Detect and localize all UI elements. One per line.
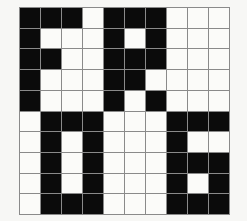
grid-cell-r7-c9[interactable] — [188, 132, 208, 152]
grid-cell-r5-c9[interactable] — [188, 91, 208, 111]
grid-cell-r3-c9[interactable] — [188, 49, 208, 69]
grid-cell-r10-c3[interactable] — [62, 194, 82, 214]
grid-cell-r7-c8[interactable] — [167, 132, 187, 152]
grid-cell-r9-c4[interactable] — [83, 174, 103, 194]
grid-cell-r4-c10[interactable] — [209, 70, 229, 90]
grid-cell-r7-c6[interactable] — [125, 132, 145, 152]
grid-cell-r2-c7[interactable] — [146, 29, 166, 49]
grid-cell-r3-c5[interactable] — [104, 49, 124, 69]
grid-cell-r10-c9[interactable] — [188, 194, 208, 214]
grid-cell-r8-c7[interactable] — [146, 153, 166, 173]
grid-cell-r10-c6[interactable] — [125, 194, 145, 214]
grid-cell-r8-c9[interactable] — [188, 153, 208, 173]
grid-cell-r10-c4[interactable] — [83, 194, 103, 214]
grid-cell-r5-c2[interactable] — [41, 91, 61, 111]
grid-cell-r10-c10[interactable] — [209, 194, 229, 214]
grid-cell-r1-c4[interactable] — [83, 8, 103, 28]
grid-cell-r7-c7[interactable] — [146, 132, 166, 152]
grid-cell-r2-c5[interactable] — [104, 29, 124, 49]
grid-cell-r5-c3[interactable] — [62, 91, 82, 111]
grid-cell-r2-c6[interactable] — [125, 29, 145, 49]
grid-cell-r6-c2[interactable] — [41, 112, 61, 132]
grid-cell-r5-c10[interactable] — [209, 91, 229, 111]
grid-cell-r6-c4[interactable] — [83, 112, 103, 132]
grid-cell-r2-c10[interactable] — [209, 29, 229, 49]
grid-cell-r8-c3[interactable] — [62, 153, 82, 173]
grid-cell-r10-c2[interactable] — [41, 194, 61, 214]
grid-cell-r6-c10[interactable] — [209, 112, 229, 132]
grid-cell-r4-c5[interactable] — [104, 70, 124, 90]
grid-cell-r7-c2[interactable] — [41, 132, 61, 152]
grid-cell-r10-c5[interactable] — [104, 194, 124, 214]
grid-cell-r1-c7[interactable] — [146, 8, 166, 28]
grid-cell-r8-c6[interactable] — [125, 153, 145, 173]
grid-cell-r1-c10[interactable] — [209, 8, 229, 28]
grid-cell-r4-c4[interactable] — [83, 70, 103, 90]
grid-cell-r3-c1[interactable] — [20, 49, 40, 69]
grid-cell-r9-c10[interactable] — [209, 174, 229, 194]
grid-cell-r2-c1[interactable] — [20, 29, 40, 49]
grid-cell-r9-c1[interactable] — [20, 174, 40, 194]
grid-cell-r8-c8[interactable] — [167, 153, 187, 173]
grid-cell-r2-c4[interactable] — [83, 29, 103, 49]
grid-cell-r1-c1[interactable] — [20, 8, 40, 28]
grid-cell-r5-c1[interactable] — [20, 91, 40, 111]
grid-cell-r1-c3[interactable] — [62, 8, 82, 28]
grid-cell-r9-c2[interactable] — [41, 174, 61, 194]
grid-cell-r6-c7[interactable] — [146, 112, 166, 132]
grid-cell-r7-c1[interactable] — [20, 132, 40, 152]
grid-cell-r4-c2[interactable] — [41, 70, 61, 90]
grid-cell-r5-c7[interactable] — [146, 91, 166, 111]
grid-cell-r9-c6[interactable] — [125, 174, 145, 194]
binary-grid[interactable] — [19, 7, 230, 215]
grid-cell-r3-c7[interactable] — [146, 49, 166, 69]
grid-cell-r7-c3[interactable] — [62, 132, 82, 152]
grid-cell-r1-c2[interactable] — [41, 8, 61, 28]
grid-cell-r6-c6[interactable] — [125, 112, 145, 132]
grid-cell-r5-c6[interactable] — [125, 91, 145, 111]
grid-cell-r8-c2[interactable] — [41, 153, 61, 173]
grid-cell-r4-c7[interactable] — [146, 70, 166, 90]
grid-cell-r1-c5[interactable] — [104, 8, 124, 28]
grid-cell-r6-c5[interactable] — [104, 112, 124, 132]
grid-cell-r3-c4[interactable] — [83, 49, 103, 69]
grid-cell-r2-c3[interactable] — [62, 29, 82, 49]
grid-cell-r5-c4[interactable] — [83, 91, 103, 111]
grid-cell-r1-c6[interactable] — [125, 8, 145, 28]
grid-cell-r3-c8[interactable] — [167, 49, 187, 69]
grid-cell-r2-c9[interactable] — [188, 29, 208, 49]
grid-cell-r9-c9[interactable] — [188, 174, 208, 194]
grid-cell-r7-c10[interactable] — [209, 132, 229, 152]
grid-cell-r3-c2[interactable] — [41, 49, 61, 69]
grid-cell-r9-c3[interactable] — [62, 174, 82, 194]
grid-cell-r5-c5[interactable] — [104, 91, 124, 111]
grid-cell-r5-c8[interactable] — [167, 91, 187, 111]
grid-cell-r3-c6[interactable] — [125, 49, 145, 69]
grid-cell-r8-c10[interactable] — [209, 153, 229, 173]
grid-cell-r6-c8[interactable] — [167, 112, 187, 132]
grid-cell-r9-c5[interactable] — [104, 174, 124, 194]
grid-cell-r3-c3[interactable] — [62, 49, 82, 69]
grid-cell-r10-c1[interactable] — [20, 194, 40, 214]
grid-cell-r1-c8[interactable] — [167, 8, 187, 28]
grid-cell-r8-c4[interactable] — [83, 153, 103, 173]
grid-cell-r7-c5[interactable] — [104, 132, 124, 152]
grid-cell-r6-c9[interactable] — [188, 112, 208, 132]
grid-cell-r8-c5[interactable] — [104, 153, 124, 173]
grid-cell-r4-c6[interactable] — [125, 70, 145, 90]
grid-cell-r6-c1[interactable] — [20, 112, 40, 132]
grid-cell-r2-c2[interactable] — [41, 29, 61, 49]
grid-cell-r3-c10[interactable] — [209, 49, 229, 69]
grid-cell-r6-c3[interactable] — [62, 112, 82, 132]
grid-cell-r2-c8[interactable] — [167, 29, 187, 49]
grid-cell-r10-c8[interactable] — [167, 194, 187, 214]
grid-cell-r4-c8[interactable] — [167, 70, 187, 90]
grid-cell-r9-c8[interactable] — [167, 174, 187, 194]
grid-cell-r10-c7[interactable] — [146, 194, 166, 214]
grid-cell-r4-c3[interactable] — [62, 70, 82, 90]
grid-cell-r1-c9[interactable] — [188, 8, 208, 28]
grid-cell-r4-c9[interactable] — [188, 70, 208, 90]
grid-cell-r7-c4[interactable] — [83, 132, 103, 152]
grid-cell-r9-c7[interactable] — [146, 174, 166, 194]
grid-cell-r8-c1[interactable] — [20, 153, 40, 173]
